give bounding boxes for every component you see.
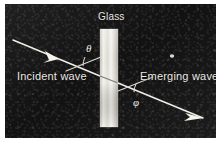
- light-speck: [170, 54, 174, 58]
- incident-ray: [13, 40, 100, 76]
- figure-frame: Glass Incident wave Emerging wave θ φ: [5, 4, 216, 138]
- theta-angle-arc: [83, 57, 85, 66]
- emerging-ray: [118, 83, 204, 121]
- glass-slab: [100, 29, 118, 127]
- diagram-canvas: [5, 4, 216, 138]
- refraction-figure: Glass Incident wave Emerging wave θ φ: [0, 0, 221, 142]
